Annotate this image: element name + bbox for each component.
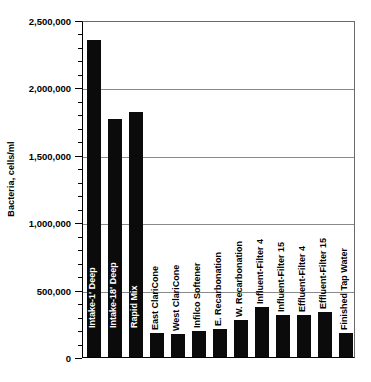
y-tick-mark-minor: [78, 345, 82, 346]
bar: [213, 329, 227, 357]
y-tick-mark-minor: [78, 196, 82, 197]
bar: [234, 320, 248, 357]
bar: [255, 307, 269, 357]
bar: [192, 331, 206, 357]
bars-layer: [83, 22, 354, 357]
y-tick-mark-major: [75, 156, 82, 157]
y-tick-label: 1,000,000: [29, 218, 71, 229]
y-tick-mark-minor: [78, 237, 82, 238]
y-tick-mark-minor: [78, 102, 82, 103]
bar: [276, 315, 290, 357]
bar: [171, 334, 185, 357]
y-tick-mark-minor: [78, 250, 82, 251]
y-tick-label: 2,500,000: [29, 16, 71, 27]
plot-area: [82, 21, 355, 358]
y-axis-tick-labels: 2,500,0002,000,0001,500,0001,000,000500,…: [18, 0, 76, 382]
y-axis-title-text: Bacteria, cells/ml: [6, 141, 16, 216]
bar: [108, 119, 122, 357]
y-tick-mark-minor: [78, 115, 82, 116]
bar: [339, 333, 353, 357]
y-tick-mark-major: [75, 358, 82, 359]
y-tick-mark-minor: [78, 169, 82, 170]
y-tick-mark-minor: [78, 210, 82, 211]
y-tick-mark-major: [75, 291, 82, 292]
y-tick-mark-minor: [78, 277, 82, 278]
bar: [297, 315, 311, 357]
y-tick-mark-minor: [78, 142, 82, 143]
y-tick-mark-major: [75, 88, 82, 89]
y-tick-mark-minor: [78, 61, 82, 62]
bar-chart: Bacteria, cells/ml 2,500,0002,000,0001,5…: [0, 0, 371, 382]
y-tick-label: 2,000,000: [29, 83, 71, 94]
y-tick-label: 1,500,000: [29, 150, 71, 161]
y-tick-mark-major: [75, 223, 82, 224]
y-tick-mark-minor: [78, 331, 82, 332]
bar: [87, 40, 101, 357]
bar: [318, 312, 332, 357]
y-tick-mark-minor: [78, 75, 82, 76]
y-tick-mark-minor: [78, 34, 82, 35]
bar: [129, 112, 143, 357]
y-tick-label: 0: [66, 353, 71, 364]
y-tick-mark-minor: [78, 264, 82, 265]
y-tick-mark-minor: [78, 318, 82, 319]
bar: [150, 333, 164, 357]
y-tick-mark-minor: [78, 183, 82, 184]
y-tick-mark-major: [75, 21, 82, 22]
y-tick-mark-minor: [78, 304, 82, 305]
y-tick-mark-minor: [78, 129, 82, 130]
y-tick-label: 500,000: [37, 285, 71, 296]
y-tick-mark-minor: [78, 48, 82, 49]
